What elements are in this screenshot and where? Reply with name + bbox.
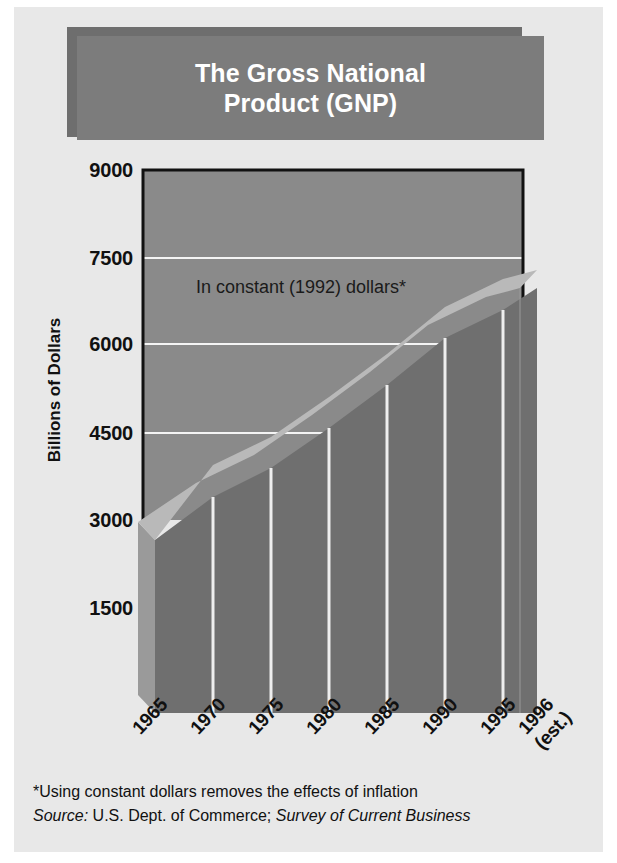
y-tick-3000: 3000 bbox=[33, 509, 133, 532]
y-tick-9000: 9000 bbox=[33, 159, 133, 182]
y-axis-title: Billions of Dollars bbox=[45, 275, 65, 505]
chart-annotation: In constant (1992) dollars* bbox=[196, 277, 406, 298]
source-publication: Survey of Current Business bbox=[276, 807, 471, 824]
footnote-source: Source: U.S. Dept. of Commerce; Survey o… bbox=[33, 807, 593, 825]
gnp-area-chart: In constant (1992) dollars* 9000 7500 60… bbox=[0, 0, 617, 863]
source-text: U.S. Dept. of Commerce; bbox=[88, 807, 276, 824]
area-left-side-face bbox=[138, 522, 155, 713]
footnotes: *Using constant dollars removes the effe… bbox=[33, 783, 593, 825]
footnote-inflation: *Using constant dollars removes the effe… bbox=[33, 783, 593, 801]
y-tick-7500: 7500 bbox=[33, 247, 133, 270]
chart-page: The Gross National Product (GNP) bbox=[0, 0, 617, 863]
y-axis-ticks: 9000 7500 6000 4500 3000 1500 bbox=[28, 0, 133, 730]
y-tick-1500: 1500 bbox=[33, 597, 133, 620]
source-label: Source: bbox=[33, 807, 88, 824]
